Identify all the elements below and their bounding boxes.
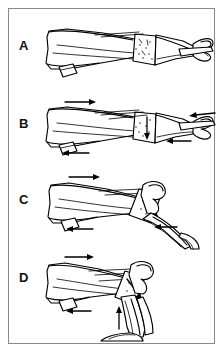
- panel-label-b: B: [19, 117, 28, 130]
- limb-extended-drawing: [43, 23, 215, 85]
- arrow-distal-upward: [116, 306, 122, 329]
- panel-c: C: [9, 167, 216, 249]
- figure-border: A: [8, 8, 215, 344]
- panel-a: A: [9, 15, 216, 93]
- arrow-proximal-traction: [69, 174, 100, 180]
- arrow-proximal-traction: [65, 254, 94, 260]
- limb-flexing-drawing: [43, 169, 221, 251]
- panel-d-illustration: [39, 247, 217, 341]
- limb-flexed-drawing: [39, 247, 217, 341]
- panel-label-c: C: [19, 193, 28, 206]
- panel-label-a: A: [19, 39, 28, 52]
- arrow-proximal-traction: [65, 99, 96, 105]
- panel-label-d: D: [19, 271, 28, 284]
- panel-b-illustration: [43, 95, 221, 167]
- panel-b: B: [9, 93, 216, 171]
- panel-a-illustration: [43, 23, 215, 85]
- panel-d: D: [9, 245, 216, 341]
- figure-canvas: A: [0, 0, 224, 364]
- limb-traction-drawing: [43, 95, 221, 167]
- panel-c-illustration: [43, 169, 221, 251]
